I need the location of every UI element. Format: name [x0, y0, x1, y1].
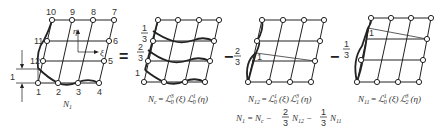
node-label-5: 5	[108, 56, 113, 66]
formula-c1-den: 3	[283, 118, 288, 128]
node-label-3: 3	[76, 87, 81, 97]
caption-nc: Nc=ℒ30(ξ)ℒ10(η)	[147, 93, 208, 105]
nc-fraction-bottom: 1	[135, 68, 140, 78]
dimension-label: 1	[10, 72, 15, 82]
caption-n1: N1	[62, 99, 72, 110]
formula-text: N1=Nc−	[235, 113, 272, 124]
panel-n1: 1 2 3 4 5 6 7 8 9 10 11 12 η ξ 1 N1	[10, 7, 118, 110]
node-label-8: 8	[91, 7, 96, 17]
coef1-den: 3	[235, 57, 240, 67]
caption-n12: N12=ℒ10(ξ)ℒ31(η)	[247, 93, 311, 105]
coef2-den: 3	[344, 50, 349, 60]
node-label-6: 6	[113, 36, 118, 46]
panel-n11: 1 N11=ℒ10(ξ)ℒ32(η)	[354, 15, 433, 105]
formula-c2-num: 1	[321, 107, 326, 117]
n11-peak-label: 1	[369, 28, 374, 38]
node-label-11: 11	[34, 36, 43, 46]
nc-fraction-mid-num: 2	[138, 42, 143, 52]
shape-function-diagram: 1 2 3 4 5 6 7 8 9 10 11 12 η ξ 1 N1 =	[0, 0, 448, 137]
minus-sign-1: −	[224, 48, 233, 65]
coef2-num: 1	[344, 39, 349, 49]
node-label-7: 7	[112, 7, 117, 17]
formula-text-3: N11	[329, 113, 342, 124]
nc-fraction-top-num: 1	[142, 23, 147, 33]
caption-n11: N11=ℒ10(ξ)ℒ32(η)	[357, 93, 421, 105]
n12-peak-line	[256, 53, 315, 61]
node-label-9: 9	[70, 7, 75, 17]
xi-label: ξ	[100, 48, 104, 58]
n11-peak-line	[368, 28, 427, 39]
formula-text-2: N12−	[291, 113, 312, 124]
node-label-1: 1	[36, 87, 41, 97]
nc-fraction-mid-den: 3	[138, 53, 143, 63]
panel-n12: 1 N12=ℒ10(ξ)ℒ31(η)	[245, 17, 326, 105]
eta-label: η	[73, 26, 78, 36]
minus-sign-2: −	[330, 48, 339, 65]
coef1-num: 2	[235, 46, 240, 56]
n12-peak-label: 1	[257, 52, 262, 62]
formula-c1-num: 2	[283, 107, 288, 117]
node-label-12: 12	[30, 56, 40, 66]
composite-formula: N1=Nc− 2 3 N12− 1 3 N11	[235, 107, 342, 128]
equals-sign: =	[119, 48, 128, 65]
node-label-2: 2	[56, 87, 61, 97]
panel-nc: 1 3 2 3 1 Nc=ℒ30(ξ)ℒ10(η)	[135, 17, 222, 105]
node-label-4: 4	[97, 87, 102, 97]
node-label-10: 10	[46, 7, 56, 17]
formula-c2-den: 3	[321, 118, 326, 128]
